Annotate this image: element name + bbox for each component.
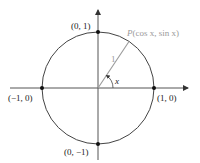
label-top: (0, 1) <box>71 21 91 31</box>
label-angle: x <box>114 76 119 86</box>
radius-line <box>98 42 129 89</box>
point-bottom <box>96 142 100 146</box>
angle-arc <box>106 76 113 89</box>
point-top <box>96 30 100 34</box>
label-radius: 1 <box>111 54 116 64</box>
unit-circle-diagram: (0, 1) (−1, 0) (1, 0) (0, −1) P(cos x, s… <box>0 0 200 163</box>
label-left: (−1, 0) <box>8 93 33 103</box>
label-bottom: (0, −1) <box>64 147 89 157</box>
label-point-p: P(cos x, sin x) <box>126 28 179 38</box>
point-left <box>40 86 44 90</box>
point-right <box>152 86 156 90</box>
label-right: (1, 0) <box>157 93 177 103</box>
